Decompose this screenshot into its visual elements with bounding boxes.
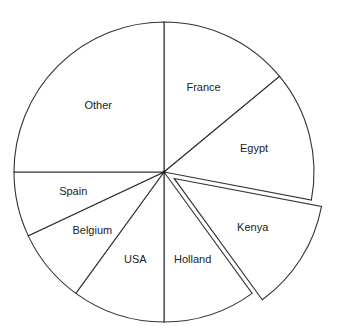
pie-chart: France Egypt Kenya Holland USA Belgium S… <box>0 0 337 334</box>
pie-slices <box>14 22 321 322</box>
label-spain: Spain <box>59 185 87 197</box>
label-egypt: Egypt <box>240 142 268 154</box>
label-belgium: Belgium <box>72 224 112 236</box>
slice-other <box>14 22 164 172</box>
label-holland: Holland <box>174 253 211 265</box>
label-france: France <box>186 81 220 93</box>
label-kenya: Kenya <box>237 221 269 233</box>
label-other: Other <box>84 99 112 111</box>
label-usa: USA <box>124 253 147 265</box>
center-dot <box>162 170 165 173</box>
